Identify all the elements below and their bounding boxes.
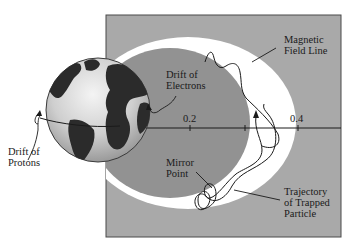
label-magnetic-field-line: Magnetic Field Line: [284, 34, 327, 56]
label-line: Drift of: [8, 146, 40, 157]
label-line: Point: [166, 168, 194, 179]
label-trajectory: Trajectory of Trapped Particle: [284, 186, 330, 219]
protons-arrowhead-icon: [36, 110, 42, 116]
earth-globe: [40, 58, 152, 162]
label-line: Particle: [284, 208, 330, 219]
tick-label-0-2: 0.2: [183, 113, 196, 124]
label-drift-of-electrons: Drift of Electrons: [166, 69, 206, 91]
magnetosphere-diagram: Magnetic Field Line Drift of Electrons D…: [0, 0, 353, 245]
label-line: Protons: [8, 157, 40, 168]
label-line: Magnetic: [284, 34, 327, 45]
label-line: Field Line: [284, 45, 327, 56]
label-line: Mirror: [166, 157, 194, 168]
label-line: of Trapped: [284, 197, 330, 208]
label-line: Trajectory: [284, 186, 330, 197]
label-line: Electrons: [166, 80, 206, 91]
label-line: Drift of: [166, 69, 206, 80]
tick-label-0-4: 0.4: [290, 113, 303, 124]
label-drift-of-protons: Drift of Protons: [8, 146, 40, 168]
label-mirror-point: Mirror Point: [166, 157, 194, 179]
